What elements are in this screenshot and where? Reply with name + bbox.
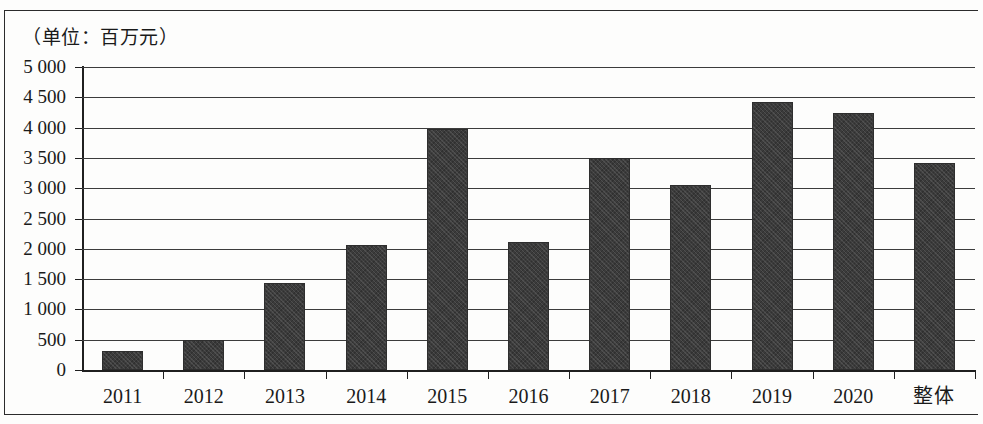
x-tick-label-整体: 整体 — [893, 385, 975, 407]
y-tick-label: 2 000 — [0, 239, 66, 258]
y-tick-mark — [75, 340, 82, 341]
x-tick-label-2018: 2018 — [650, 385, 732, 407]
x-tick-label-2014: 2014 — [325, 385, 407, 407]
x-tick-label-2011: 2011 — [82, 385, 164, 407]
x-tick-mark — [975, 370, 976, 379]
x-tick-label-2019: 2019 — [731, 385, 813, 407]
y-tick-mark — [75, 309, 82, 310]
y-tick-label: 1 500 — [0, 269, 66, 288]
x-tick-label-2012: 2012 — [163, 385, 245, 407]
x-tick-mark — [244, 370, 245, 379]
x-tick-mark — [813, 370, 814, 379]
y-tick-mark — [75, 279, 82, 280]
bar-2012 — [183, 340, 224, 370]
bar-2011 — [102, 351, 143, 370]
bar-2020 — [833, 113, 874, 370]
plot-area — [82, 67, 975, 370]
y-tick-mark — [75, 188, 82, 189]
bar-2017 — [589, 158, 630, 370]
bar-2018 — [670, 185, 711, 370]
x-tick-mark — [407, 370, 408, 379]
x-tick-label-2013: 2013 — [244, 385, 326, 407]
bar-2019 — [752, 102, 793, 370]
x-tick-mark — [488, 370, 489, 379]
x-tick-mark — [569, 370, 570, 379]
unit-caption: （单位：百万元） — [22, 22, 178, 49]
bar-2015 — [427, 129, 468, 370]
y-tick-label: 3 500 — [0, 148, 66, 167]
y-tick-mark — [75, 219, 82, 220]
y-tick-label: 500 — [0, 330, 66, 349]
y-tick-label: 2 500 — [0, 209, 66, 228]
bar-2013 — [264, 283, 305, 370]
axis-baseline — [82, 370, 975, 372]
y-tick-label: 4 500 — [0, 87, 66, 106]
y-tick-label: 0 — [0, 360, 66, 379]
x-tick-label-2016: 2016 — [488, 385, 570, 407]
x-tick-mark — [650, 370, 651, 379]
bar-整体 — [914, 163, 955, 370]
y-tick-label: 3 000 — [0, 178, 66, 197]
gridline — [82, 97, 975, 98]
x-tick-mark — [731, 370, 732, 379]
y-tick-label: 1 000 — [0, 299, 66, 318]
x-tick-mark — [163, 370, 164, 379]
y-tick-mark — [75, 97, 82, 98]
gridline — [82, 67, 975, 68]
y-tick-mark — [75, 67, 82, 68]
chart-figure: （单位：百万元） 05001 0001 5002 0002 5003 0003 … — [0, 0, 983, 424]
x-tick-label-2015: 2015 — [406, 385, 488, 407]
y-tick-label: 4 000 — [0, 118, 66, 137]
x-tick-mark — [894, 370, 895, 379]
x-tick-label-2020: 2020 — [812, 385, 894, 407]
y-tick-label: 5 000 — [0, 57, 66, 76]
y-tick-mark — [75, 128, 82, 129]
x-tick-mark — [326, 370, 327, 379]
bar-2016 — [508, 242, 549, 370]
y-tick-mark — [75, 158, 82, 159]
x-tick-label-2017: 2017 — [569, 385, 651, 407]
bar-2014 — [346, 245, 387, 370]
y-tick-mark — [75, 370, 82, 371]
y-tick-mark — [75, 249, 82, 250]
